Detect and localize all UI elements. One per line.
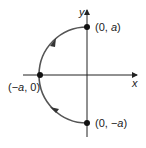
point-top [84, 24, 90, 30]
point-top-label: (0, a) [95, 22, 121, 33]
point-left-label: (−a, 0) [8, 82, 40, 93]
point-bottom-label: (0, −a) [95, 118, 127, 129]
y-axis-label: y [79, 7, 85, 18]
point-bottom [84, 120, 90, 126]
point-left [37, 72, 43, 78]
x-axis-label: x [132, 78, 138, 89]
